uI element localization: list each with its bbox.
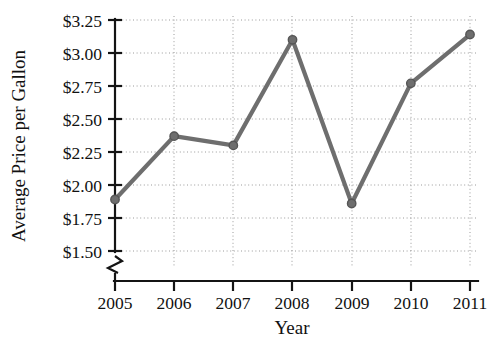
y-axis-title: Average Price per Gallon	[8, 49, 29, 242]
y-tick-label-2-75: $2.75	[63, 77, 103, 97]
data-point-2011	[466, 30, 474, 38]
price-series-markers	[111, 30, 474, 207]
y-axis-break-icon	[108, 256, 122, 273]
data-point-2006	[170, 132, 178, 140]
y-tick-label-1-50: $1.50	[63, 242, 103, 262]
data-point-2005	[111, 195, 119, 203]
x-tick-label-2006: 2006	[157, 293, 192, 313]
x-tick-label-2007: 2007	[216, 293, 251, 313]
y-tick-label-2-25: $2.25	[63, 143, 103, 163]
x-tick-marks	[115, 281, 470, 291]
data-point-2008	[288, 36, 296, 44]
y-tick-label-3-00: $3.00	[63, 44, 103, 64]
y-tick-label-2-00: $2.00	[63, 176, 103, 196]
gas-price-line-chart: $3.25 $3.00 $2.75 $2.50 $2.25 $2.00 $1.7…	[0, 0, 490, 338]
x-tick-labels: 2005 2006 2007 2008 2009 2010 2011	[98, 293, 488, 313]
x-tick-label-2010: 2010	[394, 293, 429, 313]
x-tick-label-2011: 2011	[453, 293, 487, 313]
y-tick-labels: $3.25 $3.00 $2.75 $2.50 $2.25 $2.00 $1.7…	[63, 11, 103, 262]
x-tick-label-2008: 2008	[275, 293, 310, 313]
data-point-2010	[407, 79, 415, 87]
x-tick-label-2009: 2009	[335, 293, 370, 313]
x-axis-title: Year	[274, 317, 310, 338]
y-tick-label-3-25: $3.25	[63, 11, 103, 31]
chart-canvas: $3.25 $3.00 $2.75 $2.50 $2.25 $2.00 $1.7…	[0, 0, 490, 338]
x-tick-label-2005: 2005	[98, 293, 133, 313]
y-tick-label-1-75: $1.75	[63, 209, 103, 229]
data-point-2009	[347, 199, 355, 207]
y-tick-label-2-50: $2.50	[63, 110, 103, 130]
data-point-2007	[229, 141, 237, 149]
